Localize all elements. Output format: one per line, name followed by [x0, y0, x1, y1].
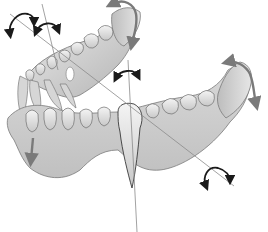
upper-premolar — [71, 42, 83, 55]
lower-premolar — [146, 104, 159, 118]
lower-incisor — [80, 109, 93, 128]
lower-incisor — [98, 107, 111, 126]
dental-illustration — [0, 0, 268, 232]
lower-premolar — [26, 110, 39, 132]
lower-canine — [62, 108, 75, 130]
upper-arch — [18, 8, 141, 118]
lower-right-rotation-arrow — [205, 168, 230, 186]
lower-premolar — [44, 108, 57, 130]
dental-arch-figure — [0, 0, 268, 232]
palatal-hole — [66, 67, 74, 81]
center-tooth — [118, 103, 142, 188]
center-tooth-rotation-arrow — [116, 71, 138, 78]
upper-canine — [47, 56, 57, 69]
